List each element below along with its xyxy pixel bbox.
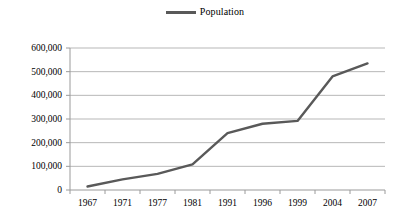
gridlines [66,48,385,190]
y-axis-tick-label: 600,000 [0,43,62,53]
y-axis-tick-label: 400,000 [0,90,62,100]
series-line-population [88,63,368,186]
x-axis-tick-label: 1971 [105,198,140,208]
x-axis-tick-label: 2007 [350,198,385,208]
y-axis-tick-label: 100,000 [0,161,62,171]
x-axis-ticks [70,190,385,194]
x-axis-tick-label: 1996 [245,198,280,208]
plot-area: 0100,000200,000300,000400,000500,000600,… [0,0,410,219]
x-axis-tick-label: 1977 [140,198,175,208]
x-axis-tick-label: 1991 [210,198,245,208]
y-axis-tick-label: 200,000 [0,138,62,148]
y-axis-tick-label: 300,000 [0,114,62,124]
y-axis-tick-label: 500,000 [0,67,62,77]
x-axis-tick-label: 1999 [280,198,315,208]
population-line-chart: Population 0100,000200,000300,000400,000… [0,0,410,219]
x-axis-tick-label: 1981 [175,198,210,208]
x-axis-tick-label: 2004 [315,198,350,208]
x-axis-tick-label: 1967 [70,198,105,208]
y-axis-tick-label: 0 [0,185,62,195]
